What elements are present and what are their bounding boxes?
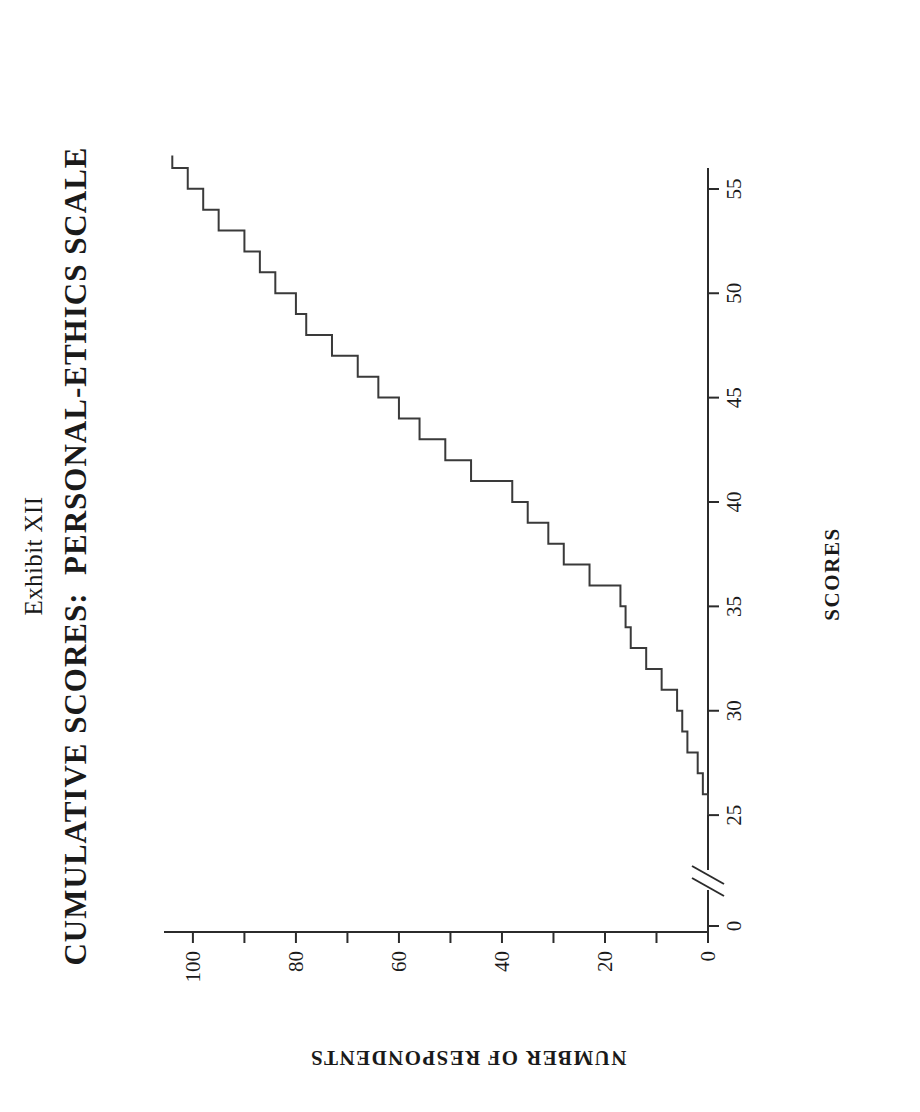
x-axis-title: SCORES [820, 154, 845, 994]
svg-text:60: 60 [387, 951, 411, 972]
cumulative-step-line [172, 155, 708, 815]
tick-label-group: 025303540455055020406080100 [181, 178, 746, 982]
svg-text:20: 20 [593, 951, 617, 972]
title-block: Exhibit XII CUMULATIVE SCORES: PERSONAL-… [20, 0, 94, 1112]
svg-text:0: 0 [722, 921, 746, 932]
svg-text:35: 35 [722, 596, 746, 617]
svg-text:55: 55 [722, 178, 746, 199]
svg-text:25: 25 [722, 805, 746, 826]
svg-text:50: 50 [722, 283, 746, 304]
chart-plot-area: 025303540455055020406080100 [148, 154, 788, 994]
chart-svg: 025303540455055020406080100 [148, 154, 788, 994]
svg-text:80: 80 [284, 951, 308, 972]
axis-group [164, 168, 724, 943]
y-axis-title: NUMBER OF RESPONDENTS [148, 1045, 788, 1070]
step-curve-group [172, 155, 708, 815]
svg-text:100: 100 [181, 951, 205, 983]
svg-text:40: 40 [722, 492, 746, 513]
svg-text:45: 45 [722, 387, 746, 408]
exhibit-label: Exhibit XII [20, 0, 48, 1112]
page-title: CUMULATIVE SCORES: PERSONAL-ETHICS SCALE [58, 0, 94, 1112]
svg-text:0: 0 [696, 951, 720, 962]
svg-text:30: 30 [722, 700, 746, 721]
figure-canvas: Exhibit XII CUMULATIVE SCORES: PERSONAL-… [0, 0, 920, 1112]
svg-text:40: 40 [490, 951, 514, 972]
